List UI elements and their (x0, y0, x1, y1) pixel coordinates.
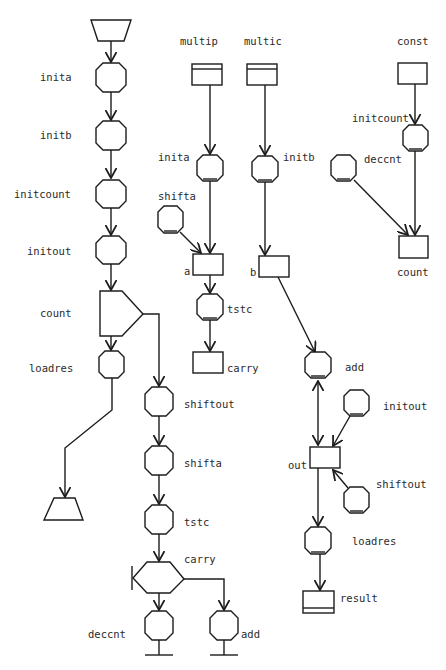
data-op-tstc: tstc (197, 294, 252, 320)
control-node-count: count (40, 291, 143, 336)
control-node-initcount: initcount (14, 180, 126, 208)
label-const: const (397, 35, 429, 47)
data-op-initcount: initcount (352, 112, 428, 151)
start-node (91, 20, 131, 41)
label-output-carry: carry (227, 362, 259, 374)
register-a (193, 254, 223, 275)
label-initcount: initcount (14, 188, 71, 200)
storage-result (303, 591, 334, 613)
control-node-loadres: loadres (29, 351, 124, 378)
register-b (259, 256, 289, 277)
control-node-shiftout: shiftout (145, 387, 235, 416)
control-node-carry: carry (132, 553, 216, 593)
diagram-canvas: inita initb initcount initout count (0, 0, 446, 670)
label-data-initout: initout (383, 400, 427, 412)
label-initb: initb (40, 129, 72, 141)
label-carry: carry (184, 553, 216, 565)
data-op-deccnt: deccnt (331, 153, 402, 181)
label-count: count (40, 307, 72, 319)
label-data-shiftout: shiftout (376, 478, 427, 490)
label-loadres: loadres (29, 362, 73, 374)
control-flow: inita initb initcount initout count (14, 20, 260, 655)
label-data-initcount: initcount (352, 112, 409, 124)
data-flow-const: const initcount deccnt count (331, 35, 429, 278)
data-flow-out: add initout out shiftout loadres result (288, 352, 427, 613)
label-data-deccnt: deccnt (364, 153, 402, 165)
label-multip: multip (180, 35, 218, 47)
label-inita: inita (40, 71, 72, 83)
data-op-inita: inita (158, 151, 223, 181)
storage-multip (192, 64, 222, 85)
label-shifta: shifta (184, 457, 222, 469)
label-data-inita: inita (158, 151, 190, 163)
storage-const (398, 63, 427, 84)
control-node-shifta: shifta (145, 446, 222, 475)
label-data-initb: initb (283, 151, 315, 163)
data-op-shiftout: shiftout (344, 478, 427, 513)
label-register-b: b (250, 266, 256, 278)
label-shiftout: shiftout (184, 398, 235, 410)
label-initout: initout (27, 245, 71, 257)
data-op-add: add (305, 352, 364, 378)
label-data-tstc: tstc (227, 303, 252, 315)
register-count (399, 236, 428, 258)
data-op-initout: initout (344, 390, 427, 416)
label-add: add (241, 628, 260, 640)
data-op-loadres: loadres (305, 527, 396, 554)
end-node (44, 498, 83, 520)
label-register-count: count (397, 266, 429, 278)
label-result: result (340, 592, 378, 604)
control-node-initout: initout (27, 236, 126, 264)
data-flow-multip: multip inita shifta a tstc carry (158, 35, 259, 374)
data-op-shifta: shifta (158, 190, 196, 233)
label-data-add: add (345, 361, 364, 373)
control-node-add: add (210, 611, 260, 655)
output-carry (193, 352, 223, 373)
data-op-initb: initb (252, 151, 315, 182)
label-register-a: a (184, 265, 190, 277)
label-data-shifta: shifta (158, 190, 196, 202)
label-register-out: out (288, 459, 307, 471)
label-multic: multic (244, 35, 282, 47)
label-data-loadres: loadres (352, 535, 396, 547)
label-tstc: tstc (184, 516, 209, 528)
control-node-initb: initb (40, 121, 126, 150)
label-deccnt: deccnt (88, 628, 126, 640)
storage-multic (247, 64, 277, 85)
register-out (310, 447, 340, 468)
control-node-tstc: tstc (145, 505, 209, 534)
data-flow-multic: multic initb b (244, 35, 315, 352)
control-node-inita: inita (40, 63, 126, 92)
control-node-deccnt: deccnt (88, 611, 173, 655)
